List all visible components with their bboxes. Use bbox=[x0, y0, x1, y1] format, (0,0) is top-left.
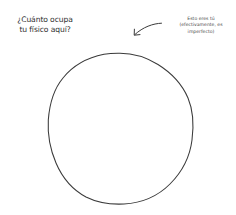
curved-arrow-icon bbox=[134, 23, 161, 35]
hand-drawn-circle-icon bbox=[48, 53, 193, 204]
drawing-canvas bbox=[0, 0, 236, 215]
